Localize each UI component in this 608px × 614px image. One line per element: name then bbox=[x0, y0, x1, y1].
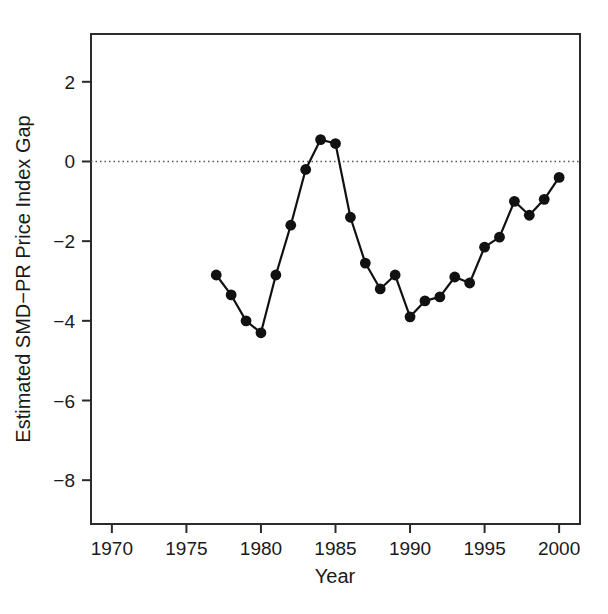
x-tick-label: 1980 bbox=[240, 538, 282, 559]
data-point-marker bbox=[464, 278, 475, 289]
data-point-marker bbox=[524, 210, 535, 221]
chart-figure: 20−2−4−6−8 1970197519801985199019952000 … bbox=[0, 0, 608, 614]
data-point-marker bbox=[509, 196, 520, 207]
x-tick-label: 1985 bbox=[314, 538, 356, 559]
x-tick-label: 1995 bbox=[463, 538, 505, 559]
data-point-marker bbox=[211, 270, 222, 281]
x-axis-ticks: 1970197519801985199019952000 bbox=[91, 524, 581, 559]
data-point-marker bbox=[360, 258, 371, 269]
data-point-marker bbox=[479, 242, 490, 253]
data-point-marker bbox=[226, 290, 237, 301]
x-tick-label: 2000 bbox=[538, 538, 580, 559]
data-point-marker bbox=[375, 284, 386, 295]
data-point-marker bbox=[330, 138, 341, 149]
x-axis-title: Year bbox=[315, 565, 356, 587]
data-series-group bbox=[211, 134, 565, 338]
data-point-marker bbox=[420, 296, 431, 307]
y-tick-label: 2 bbox=[64, 72, 75, 93]
y-tick-label: −8 bbox=[53, 470, 75, 491]
data-point-marker bbox=[390, 270, 401, 281]
data-point-marker bbox=[449, 272, 460, 283]
data-point-marker bbox=[315, 134, 326, 145]
y-tick-label: −2 bbox=[53, 231, 75, 252]
y-tick-label: −6 bbox=[53, 391, 75, 412]
x-tick-label: 1975 bbox=[165, 538, 207, 559]
y-axis-title: Estimated SMD−PR Price Index Gap bbox=[12, 115, 34, 442]
data-point-marker bbox=[285, 220, 296, 231]
data-point-marker bbox=[539, 194, 550, 205]
data-point-marker bbox=[494, 232, 505, 243]
data-point-marker bbox=[270, 270, 281, 281]
data-point-marker bbox=[434, 292, 445, 303]
data-point-marker bbox=[345, 212, 356, 223]
line-chart: 20−2−4−6−8 1970197519801985199019952000 … bbox=[0, 0, 608, 614]
x-tick-label: 1990 bbox=[389, 538, 431, 559]
y-tick-label: 0 bbox=[64, 151, 75, 172]
series-line bbox=[216, 140, 559, 333]
data-point-marker bbox=[256, 327, 267, 338]
y-tick-label: −4 bbox=[53, 311, 75, 332]
y-axis-ticks: 20−2−4−6−8 bbox=[53, 72, 91, 491]
x-tick-label: 1970 bbox=[91, 538, 133, 559]
data-point-marker bbox=[300, 164, 311, 175]
data-point-marker bbox=[405, 311, 416, 322]
data-point-marker bbox=[554, 172, 565, 183]
data-point-marker bbox=[241, 315, 252, 326]
plot-frame bbox=[91, 34, 580, 524]
